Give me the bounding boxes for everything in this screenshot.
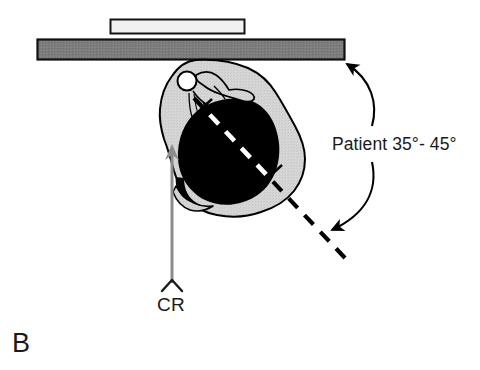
patient-angle-label: Patient 35°- 45° (332, 134, 457, 154)
figure-canvas: Patient 35°- 45° CR B (0, 0, 480, 370)
upright-bucky-grid-bar (38, 40, 345, 60)
rotation-arc-arrow-upper (347, 64, 374, 126)
panel-label: B (12, 328, 31, 358)
radiographic-positioning-figure: Patient 35°- 45° CR B (0, 0, 480, 370)
rotation-arc-arrow-lower (332, 162, 373, 230)
cassette-film-holder (111, 20, 245, 34)
humeral-head (178, 72, 197, 91)
central-ray-label: CR (157, 294, 185, 315)
